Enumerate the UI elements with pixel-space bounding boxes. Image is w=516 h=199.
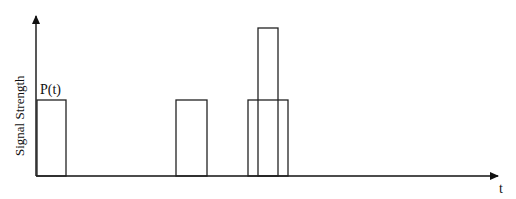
pulse-label: P(t) [40, 82, 61, 98]
x-axis-label: t [499, 181, 503, 196]
pulse-3-tall [258, 28, 278, 176]
pulse-3-wide [248, 100, 288, 176]
pulses [37, 28, 288, 176]
pulse-2 [176, 100, 207, 176]
y-axis-label: Signal Strength [12, 75, 27, 156]
signal-pulse-diagram: Signal Strength t P(t) [0, 0, 516, 199]
pulse-1 [37, 100, 66, 176]
